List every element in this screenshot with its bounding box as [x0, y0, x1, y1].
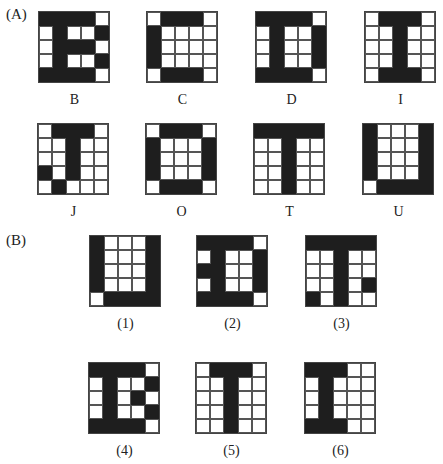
- empty-cell: [361, 405, 375, 419]
- filled-cell: [282, 180, 296, 194]
- filled-cell: [189, 12, 203, 26]
- empty-cell: [132, 264, 146, 278]
- empty-cell: [361, 363, 375, 377]
- filled-cell: [296, 124, 310, 138]
- empty-cell: [210, 405, 224, 419]
- empty-cell: [254, 166, 268, 180]
- empty-cell: [296, 152, 310, 166]
- pattern-a-3: I: [364, 11, 436, 108]
- filled-cell: [146, 166, 160, 180]
- empty-cell: [252, 405, 266, 419]
- empty-cell: [189, 54, 203, 68]
- empty-cell: [131, 377, 145, 391]
- filled-cell: [312, 40, 326, 54]
- filled-cell: [239, 292, 253, 306]
- filled-cell: [393, 68, 407, 82]
- empty-cell: [39, 54, 53, 68]
- empty-cell: [253, 236, 267, 250]
- empty-cell: [52, 166, 66, 180]
- empty-cell: [146, 180, 160, 194]
- pattern-label: I: [364, 92, 437, 108]
- filled-cell: [197, 292, 211, 306]
- empty-cell: [377, 166, 391, 180]
- filled-cell: [334, 250, 348, 264]
- empty-cell: [296, 166, 310, 180]
- empty-cell: [256, 26, 270, 40]
- filled-cell: [312, 26, 326, 40]
- empty-cell: [320, 264, 334, 278]
- empty-cell: [161, 40, 175, 54]
- filled-cell: [53, 54, 67, 68]
- empty-cell: [238, 419, 252, 433]
- empty-cell: [80, 138, 94, 152]
- filled-cell: [103, 391, 117, 405]
- empty-cell: [252, 377, 266, 391]
- empty-cell: [95, 12, 109, 26]
- filled-cell: [419, 166, 433, 180]
- empty-cell: [405, 124, 419, 138]
- filled-cell: [407, 12, 421, 26]
- filled-cell: [377, 180, 391, 194]
- filled-cell: [146, 264, 160, 278]
- empty-cell: [94, 138, 108, 152]
- pattern-label: (1): [89, 316, 162, 332]
- filled-cell: [282, 138, 296, 152]
- filled-cell: [284, 68, 298, 82]
- filled-cell: [334, 264, 348, 278]
- filled-cell: [53, 40, 67, 54]
- empty-cell: [305, 405, 319, 419]
- empty-cell: [90, 292, 104, 306]
- empty-cell: [118, 264, 132, 278]
- empty-cell: [405, 138, 419, 152]
- filled-cell: [66, 138, 80, 152]
- empty-cell: [407, 26, 421, 40]
- empty-cell: [203, 12, 217, 26]
- filled-cell: [38, 166, 52, 180]
- filled-cell: [66, 166, 80, 180]
- empty-cell: [312, 68, 326, 82]
- section-b-label: (B): [6, 232, 26, 249]
- empty-cell: [161, 26, 175, 40]
- empty-cell: [117, 405, 131, 419]
- filled-cell: [319, 363, 333, 377]
- empty-cell: [197, 250, 211, 264]
- empty-cell: [365, 68, 379, 82]
- pattern-a-6: T: [253, 123, 325, 220]
- filled-cell: [161, 12, 175, 26]
- empty-cell: [160, 152, 174, 166]
- empty-cell: [268, 180, 282, 194]
- empty-cell: [238, 377, 252, 391]
- filled-cell: [282, 166, 296, 180]
- empty-cell: [284, 40, 298, 54]
- filled-cell: [211, 264, 225, 278]
- empty-cell: [407, 40, 421, 54]
- filled-cell: [270, 54, 284, 68]
- filled-cell: [81, 40, 95, 54]
- pattern-b-3: (3): [305, 235, 377, 332]
- filled-cell: [103, 377, 117, 391]
- empty-cell: [239, 278, 253, 292]
- empty-cell: [377, 124, 391, 138]
- filled-cell: [320, 236, 334, 250]
- empty-cell: [188, 138, 202, 152]
- filled-cell: [363, 138, 377, 152]
- empty-cell: [210, 377, 224, 391]
- empty-cell: [365, 26, 379, 40]
- empty-cell: [174, 152, 188, 166]
- pattern-label: O: [145, 204, 218, 220]
- filled-cell: [211, 250, 225, 264]
- empty-cell: [268, 138, 282, 152]
- filled-cell: [393, 26, 407, 40]
- empty-cell: [298, 54, 312, 68]
- filled-cell: [39, 68, 53, 82]
- empty-cell: [239, 264, 253, 278]
- pattern-a-2: D: [255, 11, 327, 108]
- empty-cell: [347, 391, 361, 405]
- filled-cell: [90, 236, 104, 250]
- empty-cell: [365, 40, 379, 54]
- filled-cell: [393, 40, 407, 54]
- filled-cell: [225, 292, 239, 306]
- filled-cell: [333, 419, 347, 433]
- empty-cell: [52, 138, 66, 152]
- empty-cell: [421, 40, 435, 54]
